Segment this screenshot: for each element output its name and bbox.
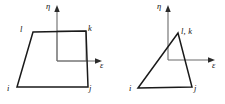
node-label-i: i <box>129 84 132 93</box>
element-outline-left <box>17 31 88 87</box>
reference-square-left <box>57 31 86 61</box>
node-label-l-k-coincident: l, k <box>181 27 192 36</box>
reference-square-outline <box>57 31 86 61</box>
epsilon-axis-label: ε <box>100 61 103 70</box>
node-label-l: l <box>20 25 23 34</box>
quadrilateral-element-panel: η ε i j k l <box>0 0 112 104</box>
node-label-k: k <box>88 24 92 33</box>
eta-axis-arrowhead-icon <box>54 5 59 12</box>
node-label-i: i <box>7 84 10 93</box>
eta-axis-label: η <box>157 2 161 11</box>
node-label-j: j <box>89 84 92 93</box>
figure-container: η ε i j k l η ε i j l, k <box>0 0 225 104</box>
quadrilateral-element-drawing <box>0 0 112 104</box>
degenerated-triangle-element-panel: η ε i j l, k <box>112 0 225 104</box>
epsilon-axis-label: ε <box>212 61 215 70</box>
eta-axis-arrowhead-icon <box>165 5 170 12</box>
eta-axis-label: η <box>46 2 50 11</box>
axes-left <box>54 5 102 64</box>
quadrilateral-outline <box>17 31 88 87</box>
node-label-j: j <box>194 84 197 93</box>
